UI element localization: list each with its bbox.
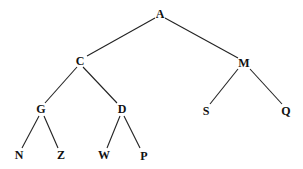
node-q: Q bbox=[281, 104, 290, 118]
edge-g-n bbox=[22, 116, 39, 148]
edge-a-m bbox=[165, 18, 238, 58]
edge-m-q bbox=[250, 69, 282, 104]
edge-d-w bbox=[107, 116, 120, 148]
edge-c-d bbox=[83, 67, 117, 103]
node-s: S bbox=[203, 104, 210, 118]
edge-d-p bbox=[124, 116, 140, 148]
tree-diagram: ACMGDSQNZWP bbox=[0, 0, 303, 169]
edge-m-s bbox=[210, 69, 238, 104]
node-n: N bbox=[15, 148, 24, 162]
node-p: P bbox=[140, 149, 147, 163]
tree-edges bbox=[22, 18, 282, 148]
node-c: C bbox=[76, 54, 85, 68]
node-a: A bbox=[156, 7, 165, 21]
node-w: W bbox=[98, 148, 110, 162]
edge-g-z bbox=[44, 116, 58, 148]
node-z: Z bbox=[57, 148, 65, 162]
node-g: G bbox=[36, 102, 45, 116]
edge-a-c bbox=[87, 18, 155, 56]
tree-nodes: ACMGDSQNZWP bbox=[15, 7, 291, 163]
node-d: D bbox=[118, 102, 127, 116]
node-m: M bbox=[238, 56, 249, 70]
edge-c-g bbox=[45, 67, 77, 103]
